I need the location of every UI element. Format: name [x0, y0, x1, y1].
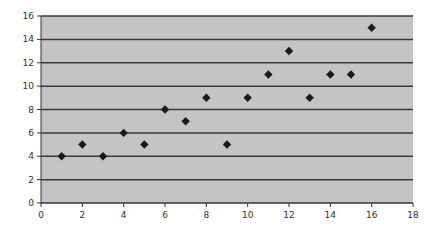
scatter-chart: 0246810121416 024681012141618	[0, 0, 439, 234]
x-tick-label: 6	[162, 210, 168, 220]
x-tick-label: 0	[38, 210, 44, 220]
x-tick-label: 10	[242, 210, 254, 220]
y-tick-label: 6	[28, 128, 34, 138]
y-tick-label: 2	[28, 175, 34, 185]
y-tick-label: 14	[23, 34, 35, 44]
x-tick-label: 18	[407, 210, 419, 220]
y-tick-label: 12	[23, 58, 34, 68]
x-tick-label: 8	[203, 210, 209, 220]
x-tick-label: 16	[366, 210, 378, 220]
x-tick-label: 2	[79, 210, 85, 220]
y-tick-label: 8	[28, 105, 34, 115]
y-tick-label: 10	[23, 81, 35, 91]
x-tick-label: 14	[325, 210, 337, 220]
y-tick-label: 4	[28, 151, 34, 161]
x-axis-ticks: 024681012141618	[38, 203, 419, 220]
y-axis-ticks: 0246810121416	[23, 11, 41, 208]
x-tick-label: 4	[121, 210, 127, 220]
y-tick-label: 0	[28, 198, 34, 208]
y-tick-label: 16	[23, 11, 35, 21]
x-tick-label: 12	[283, 210, 294, 220]
